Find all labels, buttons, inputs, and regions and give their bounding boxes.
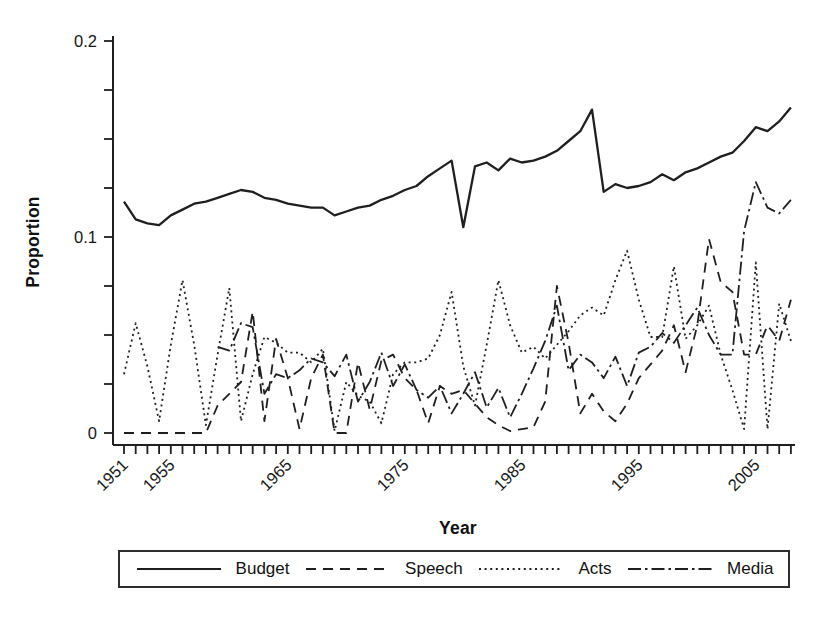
x-tick-label: 1975 — [373, 455, 412, 494]
series-budget-line — [124, 108, 791, 228]
chart-canvas: 00.10.21951195519651975198519952005 — [0, 0, 825, 545]
x-tick-label: 1955 — [139, 455, 178, 494]
acts-line-sample — [477, 562, 565, 576]
legend-item-speech: Speech — [304, 559, 463, 579]
y-tick-label: 0 — [88, 424, 97, 442]
x-tick-label: 1985 — [490, 455, 529, 494]
x-axis-title: Year — [439, 518, 477, 539]
budget-line-sample — [135, 562, 223, 576]
legend-item-acts: Acts — [477, 559, 611, 579]
x-tick-label: 1995 — [607, 455, 646, 494]
legend-item-media: Media — [626, 559, 773, 579]
x-tick-label: 2005 — [724, 455, 763, 494]
x-tick-label: 1951 — [92, 455, 131, 494]
legend: Budget Speech Acts Media — [118, 550, 790, 588]
series-media-line — [218, 182, 791, 417]
y-tick-label: 0.2 — [74, 32, 97, 50]
legend-label-budget: Budget — [236, 559, 290, 579]
x-tick-label: 1965 — [256, 455, 295, 494]
legend-label-speech: Speech — [405, 559, 463, 579]
legend-label-acts: Acts — [578, 559, 611, 579]
y-axis-title: Proportion — [23, 196, 44, 287]
speech-line-sample — [304, 562, 392, 576]
y-tick-label: 0.1 — [74, 228, 97, 246]
line-chart-figure: 00.10.21951195519651975198519952005 Prop… — [0, 0, 825, 619]
legend-item-budget: Budget — [135, 559, 290, 579]
legend-label-media: Media — [727, 559, 773, 579]
media-line-sample — [626, 562, 714, 576]
